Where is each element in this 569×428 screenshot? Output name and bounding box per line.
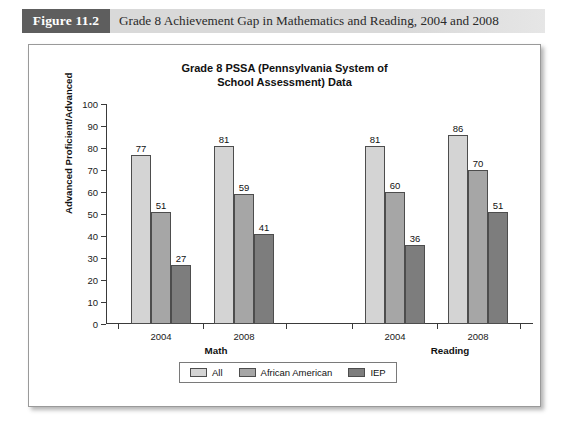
y-tick	[101, 170, 106, 171]
x-category-label: 2008	[467, 331, 488, 342]
y-tick-label: 40	[87, 231, 98, 242]
legend-item: All	[190, 367, 223, 378]
bar-value-label: 77	[136, 143, 147, 154]
y-tick	[101, 280, 106, 281]
bar: 70	[468, 170, 488, 324]
figure-header: Figure 11.2 Grade 8 Achievement Gap in M…	[22, 9, 545, 33]
chart-title-line-2: School Assessment) Data	[29, 75, 540, 89]
x-category-label: 2004	[384, 331, 405, 342]
chart-title-line-1: Grade 8 PSSA (Pennsylvania System of	[29, 61, 540, 75]
bar: 27	[171, 265, 191, 324]
y-tick-label: 90	[87, 121, 98, 132]
bar: 86	[448, 135, 468, 324]
bar: 81	[365, 146, 385, 324]
x-group-label: Reading	[431, 345, 470, 356]
y-tick-label: 100	[82, 99, 98, 110]
legend-swatch	[239, 368, 256, 377]
bar-value-label: 51	[156, 200, 167, 211]
y-tick	[101, 192, 106, 193]
y-tick-label: 0	[93, 319, 98, 330]
bar: 77	[131, 155, 151, 324]
bar: 41	[254, 234, 274, 324]
y-tick	[101, 324, 106, 325]
bar-value-label: 86	[453, 123, 464, 134]
y-axis-label: Advanced Proficient/Advanced	[63, 73, 74, 214]
y-tick-label: 50	[87, 209, 98, 220]
y-tick-label: 60	[87, 187, 98, 198]
bar-value-label: 70	[473, 158, 484, 169]
legend-item: IEP	[348, 367, 385, 378]
bar-value-label: 59	[239, 182, 250, 193]
legend-label: IEP	[370, 367, 385, 378]
x-tick	[286, 324, 287, 329]
y-axis-line	[106, 104, 107, 324]
y-tick-label: 80	[87, 143, 98, 154]
y-tick	[101, 236, 106, 237]
bar-value-label: 27	[176, 253, 187, 264]
bar-value-label: 81	[219, 134, 230, 145]
y-tick	[101, 126, 106, 127]
chart-legend: AllAfrican AmericanIEP	[179, 362, 397, 383]
x-tick	[203, 324, 204, 329]
bar-value-label: 36	[410, 233, 421, 244]
x-category-label: 2004	[150, 331, 171, 342]
bar-value-label: 51	[493, 200, 504, 211]
y-tick	[101, 214, 106, 215]
bar: 60	[385, 192, 405, 324]
y-tick	[101, 148, 106, 149]
x-tick	[352, 324, 353, 329]
y-tick-label: 30	[87, 253, 98, 264]
bar-value-label: 81	[370, 134, 381, 145]
bar-value-label: 41	[259, 222, 270, 233]
bar: 51	[488, 212, 508, 324]
x-tick	[520, 324, 521, 329]
y-tick-label: 70	[87, 165, 98, 176]
bar-value-label: 60	[390, 180, 401, 191]
legend-swatch	[190, 368, 207, 377]
plot-area: 0102030405060708090100 77512781594181603…	[106, 104, 533, 324]
chart-panel: Grade 8 PSSA (Pennsylvania System of Sch…	[28, 44, 541, 407]
bar: 36	[405, 245, 425, 324]
x-tick	[118, 324, 119, 329]
x-group-label: Math	[205, 345, 228, 356]
bar: 59	[234, 194, 254, 324]
y-tick	[101, 258, 106, 259]
bar: 81	[214, 146, 234, 324]
legend-label: All	[212, 367, 223, 378]
legend-item: African American	[239, 367, 333, 378]
y-tick-label: 10	[87, 297, 98, 308]
legend-swatch	[348, 368, 365, 377]
legend-label: African American	[261, 367, 333, 378]
figure-caption: Grade 8 Achievement Gap in Mathematics a…	[110, 9, 545, 33]
x-tick	[437, 324, 438, 329]
y-tick	[101, 104, 106, 105]
x-category-label: 2008	[233, 331, 254, 342]
chart-title: Grade 8 PSSA (Pennsylvania System of Sch…	[29, 61, 540, 89]
y-tick-label: 20	[87, 275, 98, 286]
y-tick	[101, 302, 106, 303]
bar: 51	[151, 212, 171, 324]
figure-number-badge: Figure 11.2	[22, 9, 110, 33]
